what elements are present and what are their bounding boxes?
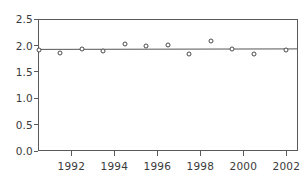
data-point [251, 51, 256, 56]
data-point [58, 51, 63, 56]
data-point [122, 41, 127, 46]
data-point [79, 46, 84, 51]
y-tick-label: 0.0 [3, 146, 33, 157]
x-tick-label: 1994 [101, 161, 129, 172]
x-tick-marks [71, 151, 286, 156]
chart-canvas: 0.0 0.5 1.0 1.5 2.0 2.5 1992 1994 1996 1… [0, 0, 306, 179]
y-tick-label: 1.5 [3, 67, 33, 78]
x-tick-label: 1998 [187, 161, 215, 172]
data-point [208, 38, 213, 43]
data-point [284, 47, 289, 52]
x-tick-label: 1996 [144, 161, 172, 172]
y-axis-tick-labels: 0.0 0.5 1.0 1.5 2.0 2.5 [0, 0, 33, 179]
data-point [101, 49, 106, 54]
y-tick-label: 2.0 [3, 41, 33, 52]
x-tick-label: 1992 [58, 161, 86, 172]
data-point [144, 44, 149, 49]
y-tick-label: 2.5 [3, 14, 33, 25]
data-point [230, 46, 235, 51]
x-tick-label: 2002 [273, 161, 301, 172]
data-point [165, 43, 170, 48]
x-tick-label: 2000 [230, 161, 258, 172]
plot-area-frame [38, 19, 298, 151]
data-point [187, 51, 192, 56]
y-tick-label: 0.5 [3, 120, 33, 131]
data-point [36, 47, 41, 52]
y-tick-label: 1.0 [3, 93, 33, 104]
